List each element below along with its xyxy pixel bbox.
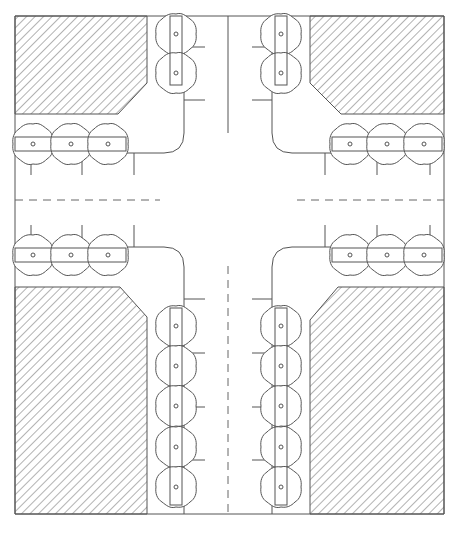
tree-trunk-icon	[174, 364, 178, 368]
tree-trunk-icon	[348, 253, 352, 257]
tree-row-top-left-horizontal	[13, 123, 129, 164]
tree-row-top-right-horizontal	[330, 123, 445, 164]
tree-trunk-icon	[279, 71, 283, 75]
block-top-right	[310, 16, 444, 114]
tree-trunk-icon	[174, 485, 178, 489]
tree-trunk-icon	[422, 142, 426, 146]
tree-trunk-icon	[174, 32, 178, 36]
tree-row-bottom-left-vertical	[156, 305, 197, 507]
tree-trunk-icon	[31, 253, 35, 257]
tree-trunk-icon	[279, 445, 283, 449]
tree-trunk-icon	[279, 404, 283, 408]
tree-trunk-icon	[174, 71, 178, 75]
tree-trunk-icon	[279, 32, 283, 36]
intersection-plan-drawing	[0, 0, 454, 535]
tree-trunk-icon	[69, 253, 73, 257]
tree-row-mid-right-horizontal	[330, 234, 445, 275]
tree-trunk-icon	[348, 142, 352, 146]
tree-row-bottom-right-vertical	[261, 305, 302, 507]
tree-trunk-icon	[106, 142, 110, 146]
tree-trunk-icon	[174, 445, 178, 449]
block-bottom-right	[310, 287, 444, 514]
tree-trunk-icon	[279, 324, 283, 328]
tree-trunk-icon	[279, 364, 283, 368]
tree-trunk-icon	[385, 253, 389, 257]
tree-trunk-icon	[174, 404, 178, 408]
block-bottom-left	[15, 287, 147, 514]
tree-row-top-right-vertical	[261, 13, 302, 93]
tree-trunk-icon	[174, 324, 178, 328]
block-top-left	[15, 16, 147, 114]
tree-trunk-icon	[31, 142, 35, 146]
tree-trunk-icon	[69, 142, 73, 146]
tree-trunk-icon	[385, 142, 389, 146]
tree-row-mid-left-horizontal	[13, 234, 129, 275]
tree-trunk-icon	[279, 485, 283, 489]
tree-row-top-left-vertical	[156, 13, 197, 93]
tree-trunk-icon	[422, 253, 426, 257]
tree-trunk-icon	[106, 253, 110, 257]
